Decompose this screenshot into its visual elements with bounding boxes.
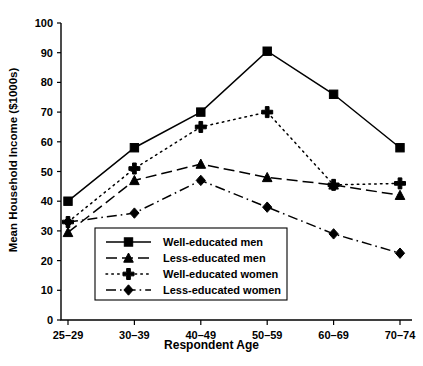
series-well-educated-men <box>64 47 404 205</box>
legend-label: Less-educated women <box>163 284 281 296</box>
y-tick-label: 50 <box>41 166 53 178</box>
plot-area: 010203040506070809010025–2930–3940–4950–… <box>0 0 423 366</box>
y-tick-label: 10 <box>41 284 53 296</box>
data-point-square <box>263 47 271 55</box>
data-point-diamond <box>130 208 139 218</box>
series-line <box>68 51 400 201</box>
data-point-diamond <box>329 229 338 239</box>
y-tick-label: 100 <box>35 17 53 29</box>
series-less-educated-men <box>63 159 405 237</box>
y-tick-label: 90 <box>41 47 53 59</box>
y-tick-label: 80 <box>41 76 53 88</box>
series-line <box>68 164 400 232</box>
y-tick-label: 70 <box>41 106 53 118</box>
series-line <box>68 112 400 222</box>
y-tick-label: 40 <box>41 195 53 207</box>
y-tick-label: 20 <box>41 255 53 267</box>
data-point-diamond <box>395 248 404 258</box>
data-point-plus <box>262 107 273 118</box>
data-point-plus <box>395 178 406 189</box>
data-point-triangle <box>395 190 405 199</box>
data-point-square <box>130 144 138 152</box>
y-tick-label: 60 <box>41 136 53 148</box>
series-well-educated-women <box>63 107 406 228</box>
data-point-plus <box>129 163 140 174</box>
data-point-square <box>396 144 404 152</box>
x-axis-title: Respondent Age <box>0 338 423 352</box>
data-point-square <box>329 90 337 98</box>
data-point-triangle <box>63 227 73 236</box>
y-tick-label: 30 <box>41 225 53 237</box>
income-by-age-line-chart: Mean Household Income ($1000s) 010203040… <box>0 0 423 366</box>
legend-item-well-educated-men[interactable]: Well-educated men <box>106 236 263 248</box>
legend-label: Well-educated men <box>163 236 263 248</box>
legend: Well-educated menLess-educated menWell-e… <box>95 228 287 300</box>
data-point-square <box>197 108 205 116</box>
legend-label: Well-educated women <box>163 268 279 280</box>
data-point-square <box>64 197 72 205</box>
data-point-square <box>124 238 132 246</box>
data-point-triangle <box>196 159 206 168</box>
y-axis-ticks: 0102030405060708090100 <box>35 17 61 326</box>
y-tick-label: 0 <box>47 314 53 326</box>
data-point-diamond <box>63 217 72 227</box>
legend-label: Less-educated men <box>163 252 266 264</box>
data-point-diamond <box>263 202 272 212</box>
data-point-diamond <box>196 175 205 185</box>
data-point-plus <box>195 121 206 132</box>
